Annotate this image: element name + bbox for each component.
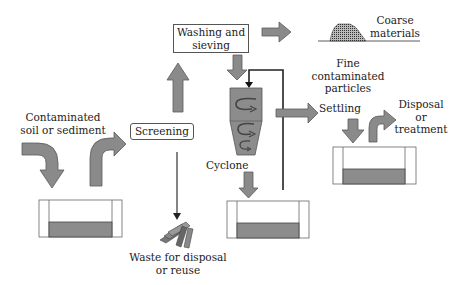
arrow-down-to-cyclone-icon	[227, 55, 247, 80]
arrow-down-to-tank-3-icon	[342, 119, 364, 143]
waste-pile-icon	[160, 222, 193, 248]
tank-1	[39, 200, 122, 237]
arrow-down-to-waste-icon	[173, 152, 181, 220]
settling-label: Settling	[319, 102, 359, 115]
curved-arrow-input-icon	[22, 143, 64, 188]
waste-label: Waste for disposal or reuse	[128, 251, 228, 276]
cyclone-icon	[230, 88, 262, 155]
tank-2	[227, 201, 309, 238]
input-label: Contaminated soil or sediment	[18, 111, 108, 136]
cyclone-label: Cyclone	[206, 159, 256, 172]
fine-particles-label: Fine contaminated particles	[308, 57, 388, 95]
arrow-down-to-tank-2-icon	[239, 172, 258, 198]
disposal-label: Disposal or treatment	[391, 98, 451, 136]
screening-box: Screening	[130, 123, 194, 140]
coarse-label: Coarse materials	[365, 14, 425, 39]
washing-box: Washing and sieving	[173, 24, 249, 53]
tank-3	[333, 147, 416, 184]
curved-arrow-to-screening-icon	[90, 132, 126, 186]
arrow-right-to-coarse-icon	[262, 22, 291, 42]
arrow-up-to-washing-icon	[167, 63, 189, 112]
